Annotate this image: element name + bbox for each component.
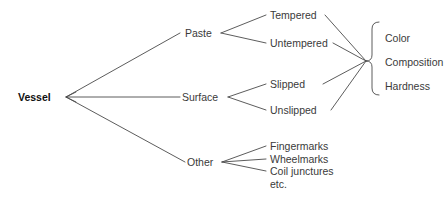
edge-tempered-attributes (325, 15, 366, 61)
edge-vessel-other (66, 97, 185, 162)
node-surface: Surface (182, 92, 218, 103)
edge-paste-untempered (221, 33, 266, 43)
edge-slipped-attributes (323, 61, 366, 84)
tree-diagram: Vessel Paste Surface Other Tempered Unte… (0, 0, 446, 201)
node-paste: Paste (185, 28, 212, 39)
edge-paste-tempered (221, 15, 266, 33)
node-etc: etc. (270, 179, 287, 190)
node-other: Other (187, 157, 213, 168)
node-tempered: Tempered (270, 10, 317, 21)
node-slipped: Slipped (270, 79, 305, 90)
node-color: Color (385, 33, 410, 44)
edge-untempered-attributes (333, 43, 366, 61)
node-wheelmarks: Wheelmarks (270, 154, 328, 165)
node-hardness: Hardness (385, 81, 430, 92)
edge-other-coiljunctures (222, 162, 266, 171)
node-fingermarks: Fingermarks (270, 141, 328, 152)
node-vessel: Vessel (18, 92, 51, 103)
diagram-edges (0, 0, 446, 201)
node-composition: Composition (385, 57, 443, 68)
node-untempered: Untempered (270, 38, 328, 49)
edge-surface-slipped (228, 84, 266, 97)
node-coil-junctures: Coil junctures (270, 166, 334, 177)
edge-surface-unslipped (228, 97, 266, 110)
edge-unslipped-attributes (331, 61, 366, 110)
edge-vessel-paste (66, 33, 180, 97)
attributes-curly-brace (366, 22, 379, 95)
node-unslipped: Unslipped (270, 105, 317, 116)
